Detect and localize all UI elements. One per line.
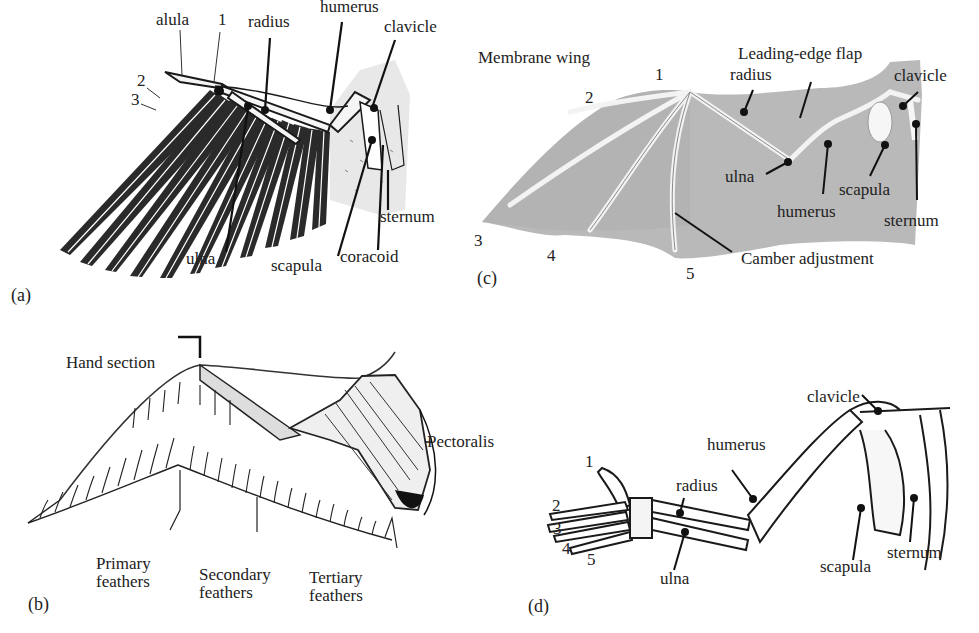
label-a-sternum: sternum [380, 208, 435, 226]
panel-tag-c: (c) [477, 268, 497, 289]
label-c-digit-3: 3 [474, 232, 483, 250]
label-a-alula: alula [156, 11, 189, 29]
label-c-digit-1: 1 [655, 66, 664, 84]
label-b-pectoralis: Pectoralis [427, 433, 494, 451]
label-b-primary-feathers: Primary feathers [96, 555, 151, 591]
label-a-digit-1: 1 [218, 11, 227, 29]
label-c-membrane-wing: Membrane wing [478, 49, 590, 67]
label-d-digit-2: 2 [552, 497, 561, 515]
bird-wing-skeleton-illustration [0, 0, 470, 310]
label-c-digit-5: 5 [686, 265, 695, 283]
label-a-digit-2: 2 [137, 72, 146, 90]
label-b-tertiary-feathers: Tertiary feathers [309, 569, 363, 605]
panel-tag-d: (d) [528, 596, 549, 617]
label-d-scapula: scapula [820, 558, 871, 576]
label-d-humerus: humerus [707, 436, 766, 454]
label-a-humerus: humerus [320, 0, 379, 16]
label-d-clavicle: clavicle [807, 388, 860, 406]
label-a-digit-3: 3 [131, 91, 140, 109]
panel-a-bird-wing-skeleton [0, 0, 470, 310]
label-d-digit-1: 1 [585, 453, 594, 471]
label-c-digit-2: 2 [585, 89, 594, 107]
label-d-sternum: sternum [887, 544, 942, 562]
label-b-hand-section: Hand section [66, 354, 155, 372]
label-a-radius: radius [248, 13, 290, 31]
label-c-scapula: scapula [839, 181, 890, 199]
label-d-digit-5: 5 [587, 551, 596, 569]
label-d-digit-3: 3 [553, 520, 562, 538]
panel-tag-b: (b) [28, 594, 49, 615]
label-d-ulna: ulna [660, 570, 689, 588]
panel-tag-a: (a) [11, 285, 31, 306]
label-c-humerus: humerus [777, 203, 836, 221]
label-a-ulna: ulna [186, 250, 215, 268]
label-c-sternum: sternum [884, 212, 939, 230]
label-b-secondary-feathers: Secondary feathers [199, 566, 271, 602]
label-a-coracoid: coracoid [340, 248, 399, 266]
label-d-digit-4: 4 [562, 540, 571, 558]
label-c-leading-edge-flap: Leading-edge flap [738, 45, 862, 63]
label-d-radius: radius [676, 477, 718, 495]
label-c-camber-adjustment: Camber adjustment [741, 250, 874, 268]
label-c-clavicle: clavicle [894, 67, 947, 85]
label-c-ulna: ulna [725, 168, 754, 186]
label-c-radius: radius [730, 66, 772, 84]
label-c-digit-4: 4 [547, 247, 556, 265]
label-a-clavicle: clavicle [384, 18, 437, 36]
label-a-scapula: scapula [271, 257, 322, 275]
